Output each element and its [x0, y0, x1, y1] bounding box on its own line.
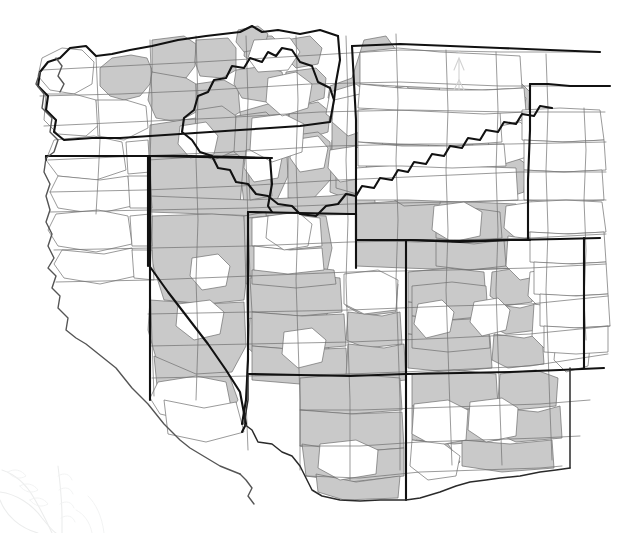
- map-canvas: N: [0, 0, 630, 533]
- county-unshaded: [54, 248, 136, 284]
- county-unshaded: [356, 164, 518, 202]
- county-unshaded: [522, 108, 604, 142]
- western-us-county-map: N: [0, 0, 630, 533]
- county-unshaded: [254, 246, 324, 274]
- county-unshaded: [344, 270, 398, 314]
- county-unshaded: [528, 200, 606, 234]
- county-shaded: [300, 374, 402, 414]
- county-unshaded: [524, 170, 604, 202]
- county-unshaded: [468, 398, 518, 442]
- county-unshaded: [50, 176, 132, 214]
- county-shaded: [346, 312, 402, 348]
- county-unshaded: [530, 232, 606, 264]
- county-shaded: [462, 440, 554, 472]
- north-arrow-label: N: [456, 48, 461, 56]
- county-unshaded: [544, 326, 608, 354]
- county-unshaded: [48, 210, 132, 252]
- county-unshaded: [524, 140, 606, 172]
